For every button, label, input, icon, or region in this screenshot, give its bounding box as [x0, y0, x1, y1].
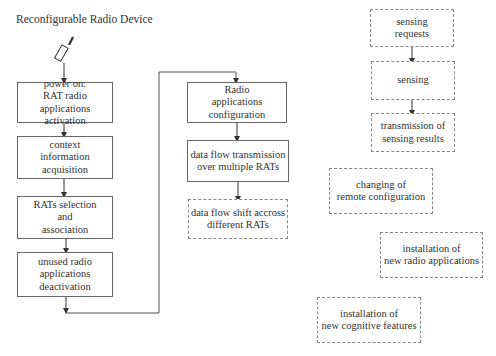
step-deactivation: unused radio applications deactivation — [17, 252, 113, 297]
step-data-flow-shift: data flow shift accross different RATs — [188, 199, 288, 239]
step-sensing: sensing — [371, 61, 455, 100]
step-context-acquisition: context information acquisition — [17, 136, 113, 179]
step-data-flow-transmission: data flow transmission over multiple RAT… — [187, 140, 289, 182]
remote-configuration-change: changing of remote configuration — [329, 168, 433, 214]
step-sensing-results: transmission of sensing results — [371, 113, 455, 152]
cognitive-features-installation: installation of new cognitive features — [317, 297, 421, 343]
step-power-on: power on: RAT radio applications activat… — [17, 82, 113, 123]
step-sensing-requests: sensing requests — [370, 9, 454, 47]
step-rat-selection: RATs selection and association — [17, 196, 113, 239]
new-radio-app-installation: installation of new radio applications — [380, 232, 483, 278]
step-radio-config: Radio applications configuration — [187, 82, 287, 123]
mobile-phone-icon — [55, 37, 73, 61]
